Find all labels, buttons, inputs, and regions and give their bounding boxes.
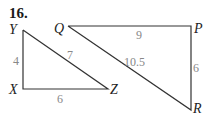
side-qp-label: 9 [136, 28, 142, 42]
side-qr-label: 10.5 [124, 55, 145, 69]
side-yz-label: 7 [67, 48, 73, 62]
vertex-x-label: X [8, 82, 18, 97]
side-xz-label: 6 [57, 92, 63, 106]
vertex-q-label: Q [54, 21, 64, 36]
figure: 16. Y X Z 4 7 6 Q P R 9 10.5 6 [0, 0, 207, 116]
side-xy-label: 4 [13, 54, 19, 68]
side-pr-label: 6 [193, 61, 199, 75]
vertex-p-label: P [193, 21, 203, 36]
vertex-y-label: Y [9, 22, 19, 37]
vertex-r-label: R [192, 101, 202, 116]
vertex-z-label: Z [110, 82, 118, 97]
problem-number: 16. [9, 5, 28, 21]
triangle-qpr: Q P R 9 10.5 6 [54, 21, 203, 116]
triangle-xyz-edges [23, 30, 108, 89]
